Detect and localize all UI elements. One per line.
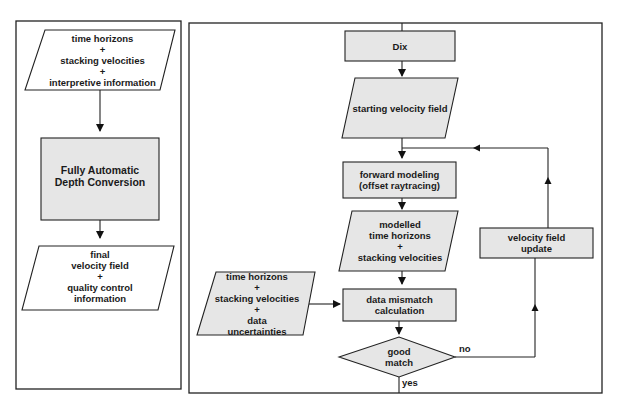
modelled-label: modelled time horizons + stacking veloci… [345, 219, 455, 263]
observed-data-label: time horizons + stacking velocities + da… [202, 271, 312, 337]
feedback-arrowhead-top [473, 145, 480, 152]
left-process-text: Fully Automatic Depth Conversion [41, 164, 159, 188]
up-arrowhead-upper [545, 177, 552, 184]
forward-modeling-label: forward modeling (offset raytracing) [343, 169, 456, 191]
velocity-update-label: velocity field update [480, 232, 593, 254]
left-output-text: final velocity field + quality control i… [35, 249, 165, 304]
yes-label: yes [402, 377, 422, 388]
starting-velocity-label: starting velocity field [345, 103, 455, 114]
good-match-label: good match [369, 346, 429, 368]
up-arrowhead-lower [532, 304, 539, 311]
no-label: no [459, 343, 479, 354]
mismatch-label: data mismatch calculation [343, 294, 456, 316]
dix-label: Dix [345, 41, 455, 52]
left-input-text: time horizons + stacking velocities + in… [40, 33, 165, 88]
